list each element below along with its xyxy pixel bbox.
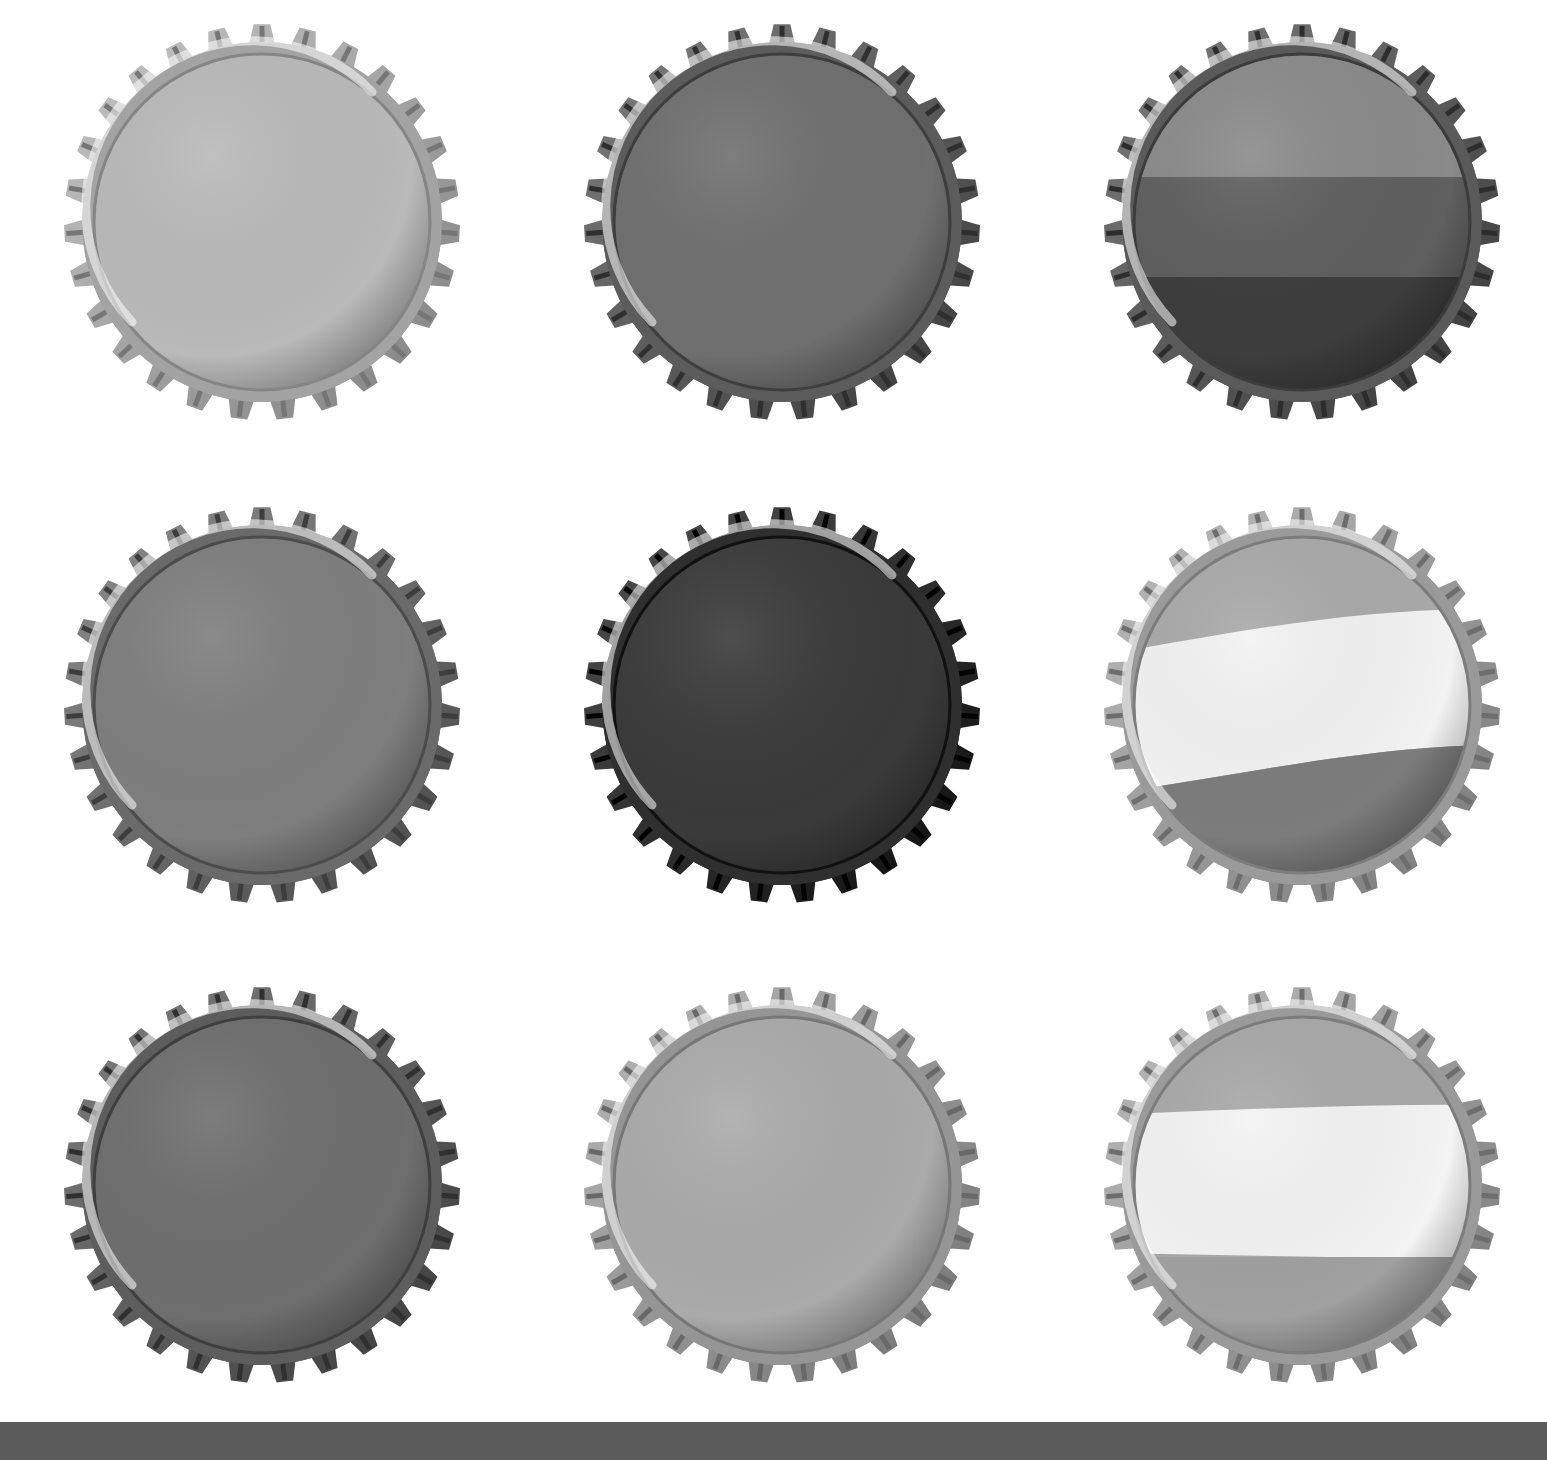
bottle-cap-5: [582, 505, 982, 905]
bottle-cap-icon: [582, 985, 982, 1385]
bottle-cap-2: [582, 22, 982, 422]
bottle-cap-1: [62, 22, 462, 422]
bottle-cap-icon: [62, 985, 462, 1385]
bottle-cap-icon: [582, 22, 982, 422]
bottle-cap-4: [62, 505, 462, 905]
bottle-cap-8: [582, 985, 982, 1385]
bottom-band: [0, 1422, 1547, 1460]
bottle-cap-icon: [1102, 985, 1502, 1385]
bottle-cap-3: [1102, 22, 1502, 422]
bottle-cap-icon: [582, 505, 982, 905]
bottle-cap-icon: [62, 22, 462, 422]
bottle-cap-9: [1102, 985, 1502, 1385]
bottle-cap-grid: [0, 0, 1547, 1422]
bottle-cap-7: [62, 985, 462, 1385]
bottle-cap-icon: [1102, 505, 1502, 905]
bottle-cap-6: [1102, 505, 1502, 905]
bottle-cap-icon: [62, 505, 462, 905]
bottle-cap-icon: [1102, 22, 1502, 422]
